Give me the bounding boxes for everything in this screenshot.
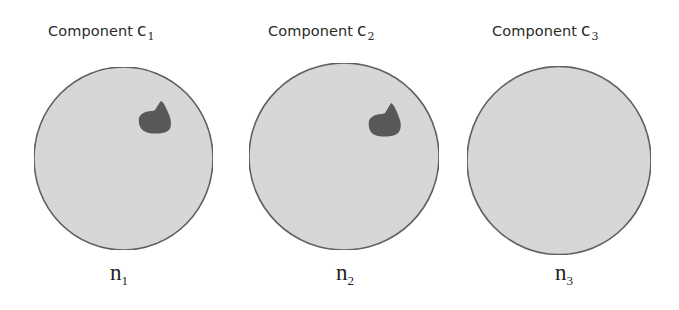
node-label-n2: n2 — [336, 260, 354, 286]
component-title-prefix: Component — [48, 23, 133, 39]
component-title-c2: Componentc2 — [268, 20, 375, 40]
node-var: n — [336, 260, 348, 285]
component-index: 2 — [368, 30, 375, 43]
component-title-c3: Componentc3 — [492, 20, 599, 40]
component-index: 3 — [592, 30, 599, 43]
component-index: 1 — [148, 30, 155, 43]
node-index: 2 — [348, 273, 355, 288]
node-circle-2 — [249, 63, 439, 250]
node-var: n — [555, 260, 567, 285]
node-index: 1 — [122, 273, 129, 288]
node-circle-3 — [467, 67, 651, 255]
component-var: c — [357, 20, 366, 40]
node-label-n1: n1 — [110, 260, 128, 286]
node-index: 3 — [567, 273, 574, 288]
component-var: c — [137, 20, 146, 40]
node-n3 — [467, 67, 651, 255]
component-var: c — [581, 20, 590, 40]
component-title-prefix: Component — [268, 23, 353, 39]
node-label-n3: n3 — [555, 260, 573, 286]
component-diagram: Componentc1 Componentc2 Componentc3 n1 n… — [0, 0, 679, 310]
component-title-prefix: Component — [492, 23, 577, 39]
node-circle-1 — [34, 67, 213, 250]
node-var: n — [110, 260, 122, 285]
node-n2 — [249, 63, 439, 250]
component-title-c1: Componentc1 — [48, 20, 155, 40]
node-n1 — [34, 67, 213, 250]
